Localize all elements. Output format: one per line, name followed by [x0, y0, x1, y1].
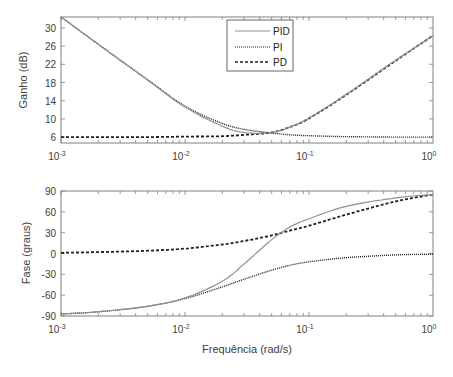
x-tick-label: 10-1 — [296, 323, 313, 335]
y-tick-label: 14 — [45, 96, 57, 107]
y-tick-label: 60 — [45, 207, 57, 218]
y-tick-label: -30 — [42, 269, 57, 280]
phase-y-axis-label: Fase (graus) — [20, 222, 32, 284]
y-tick-label: 6 — [50, 132, 56, 143]
gain-y-axis-label: Ganho (dB) — [17, 52, 29, 109]
y-tick-label: 26 — [45, 41, 57, 52]
phase-y-ticks — [61, 191, 433, 316]
y-tick-label: 90 — [45, 186, 57, 197]
curve-pd — [61, 195, 433, 253]
phase-x-minor-ticks — [61, 191, 427, 316]
phase-x-axis-label: Frequência (rad/s) — [202, 343, 292, 355]
y-tick-label: -90 — [42, 311, 57, 322]
legend: PID PI PD — [227, 20, 293, 71]
x-tick-label: 100 — [421, 150, 436, 162]
legend-pi-label: PI — [273, 42, 282, 53]
y-tick-label: 22 — [45, 59, 57, 70]
phase-plot: 9060300-30-60-90 Fase (graus) 10-310-210… — [20, 186, 437, 355]
gain-plot: 3026221814106 Ganho (dB) PID PI PD 10-31… — [17, 17, 437, 162]
x-tick-label: 10-3 — [48, 150, 65, 162]
phase-x-tick-labels: 10-310-210-1100 — [48, 323, 436, 335]
x-tick-label: 10-1 — [296, 150, 313, 162]
y-tick-label: 10 — [45, 114, 57, 125]
gain-y-tick-labels: 3026221814106 — [45, 23, 57, 143]
gain-x-tick-labels: 10-310-210-1100 — [48, 150, 436, 162]
curve-pi — [61, 254, 433, 314]
phase-y-tick-labels: 9060300-30-60-90 — [42, 186, 57, 322]
legend-pid-label: PID — [273, 26, 290, 37]
x-tick-label: 10-3 — [48, 323, 65, 335]
y-tick-label: 0 — [50, 249, 56, 260]
y-tick-label: 18 — [45, 78, 57, 89]
y-tick-label: 30 — [45, 228, 57, 239]
x-tick-label: 10-2 — [172, 150, 189, 162]
y-tick-label: 30 — [45, 23, 57, 34]
y-tick-label: -60 — [42, 290, 57, 301]
curve-pid — [61, 195, 433, 314]
legend-pd-label: PD — [273, 57, 287, 68]
phase-curves — [61, 195, 433, 314]
x-tick-label: 10-2 — [172, 323, 189, 335]
bode-figure: 3026221814106 Ganho (dB) PID PI PD 10-31… — [0, 0, 453, 377]
x-tick-label: 100 — [421, 323, 436, 335]
phase-plot-frame — [61, 191, 433, 316]
